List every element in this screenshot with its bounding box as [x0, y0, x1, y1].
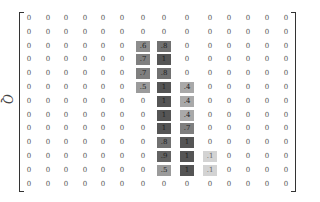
matrix-cell: 0: [180, 27, 194, 38]
matrix-cell: 0: [260, 68, 274, 79]
matrix-cell: 0: [22, 54, 36, 65]
matrix-cell: 0: [96, 41, 110, 52]
matrix-cell: 0: [115, 54, 129, 65]
matrix-cell: 0: [78, 13, 92, 24]
matrix-cell: 0: [41, 96, 55, 107]
matrix-cell: 0: [22, 165, 36, 176]
matrix-cell: 0: [260, 179, 274, 190]
matrix-cell: 0: [96, 13, 110, 24]
matrix-cell: 0: [41, 110, 55, 121]
matrix-cell: 0: [279, 151, 293, 162]
matrix-cell: 0: [203, 96, 217, 107]
matrix-cell: 0: [180, 68, 194, 79]
matrix-cell: 0: [203, 110, 217, 121]
matrix-cell: 0: [22, 82, 36, 93]
matrix-cell: 0: [241, 27, 255, 38]
matrix-cell: 0: [96, 179, 110, 190]
matrix-cell: 1: [157, 123, 171, 134]
matrix-cell: 0: [59, 137, 73, 148]
matrix-cell: 0: [222, 96, 236, 107]
matrix-cell: 0: [279, 165, 293, 176]
matrix-cell: 0: [96, 54, 110, 65]
matrix-cell: 0: [241, 137, 255, 148]
matrix-cell: 0: [96, 137, 110, 148]
matrix-cell: 1: [180, 137, 194, 148]
matrix-cell: 0: [260, 110, 274, 121]
matrix-cell: 0: [241, 41, 255, 52]
matrix-cell: 0: [115, 179, 129, 190]
matrix-cell: 0: [115, 68, 129, 79]
matrix-cell: .9: [157, 151, 171, 162]
matrix-cell: 0: [260, 165, 274, 176]
matrix-cell: 0: [136, 13, 150, 24]
matrix-cell: 0: [136, 27, 150, 38]
matrix-cell: 0: [203, 27, 217, 38]
matrix-cell: 0: [279, 179, 293, 190]
matrix-cell: 0: [22, 68, 36, 79]
matrix-cell: 0: [260, 82, 274, 93]
matrix-cell: 0: [222, 54, 236, 65]
matrix-cell: 0: [22, 179, 36, 190]
matrix-cell: 0: [22, 13, 36, 24]
matrix-cell: 0: [59, 54, 73, 65]
matrix-cell: 0: [136, 96, 150, 107]
matrix-cell: 0: [279, 13, 293, 24]
matrix-cell: 0: [59, 123, 73, 134]
matrix-cell: 0: [241, 110, 255, 121]
matrix-cell: 0: [115, 27, 129, 38]
matrix-cell: .1: [203, 151, 217, 162]
matrix-cell: 0: [59, 27, 73, 38]
matrix-cell: 0: [180, 13, 194, 24]
matrix-cell: .8: [157, 137, 171, 148]
matrix-cell: 0: [241, 82, 255, 93]
matrix-cell: 0: [41, 13, 55, 24]
matrix-cell: 0: [222, 27, 236, 38]
matrix-cell: 0: [22, 123, 36, 134]
matrix-cell: 0: [59, 110, 73, 121]
matrix-cell: 0: [203, 68, 217, 79]
matrix-cell: 0: [260, 96, 274, 107]
matrix-cell: 0: [96, 96, 110, 107]
matrix-cell: 0: [260, 13, 274, 24]
matrix-cell: 0: [222, 110, 236, 121]
matrix-cell: 0: [136, 110, 150, 121]
matrix-cell: 0: [279, 54, 293, 65]
matrix-cell: 0: [260, 41, 274, 52]
matrix-cell: 0: [279, 96, 293, 107]
matrix-cell: 0: [59, 68, 73, 79]
matrix-cell: 0: [241, 165, 255, 176]
matrix-cell: 0: [78, 27, 92, 38]
matrix-cell: 0: [260, 137, 274, 148]
matrix-cell: 0: [241, 123, 255, 134]
matrix-cell: 0: [59, 179, 73, 190]
matrix-cell: 0: [136, 123, 150, 134]
matrix-cell: 0: [241, 96, 255, 107]
matrix-cell: 0: [241, 151, 255, 162]
matrix-cell: 0: [59, 13, 73, 24]
matrix-cell: .6: [136, 41, 150, 52]
matrix-cell: 0: [115, 110, 129, 121]
matrix-cell: 0: [279, 82, 293, 93]
matrix-cell: .8: [157, 41, 171, 52]
matrix-cell: 0: [115, 151, 129, 162]
matrix-cell: .7: [136, 54, 150, 65]
matrix-cell: 0: [260, 54, 274, 65]
matrix-cell: 0: [203, 179, 217, 190]
matrix-cell: 1: [180, 151, 194, 162]
matrix-cell: 0: [22, 151, 36, 162]
matrix-cell: 0: [59, 96, 73, 107]
matrix-cell: 0: [222, 123, 236, 134]
matrix-cell: 0: [115, 165, 129, 176]
matrix-cell: 0: [22, 96, 36, 107]
matrix-cell: 0: [78, 96, 92, 107]
matrix-cell: 0: [157, 27, 171, 38]
matrix-cell: 0: [260, 27, 274, 38]
matrix-cell: 0: [180, 179, 194, 190]
matrix-cell: 0: [41, 54, 55, 65]
matrix-cell: 0: [41, 82, 55, 93]
matrix-cell: 0: [115, 82, 129, 93]
matrix-cell: 0: [203, 123, 217, 134]
matrix-cell: 0: [279, 123, 293, 134]
matrix-cell: 0: [78, 151, 92, 162]
matrix-cell: 0: [136, 179, 150, 190]
